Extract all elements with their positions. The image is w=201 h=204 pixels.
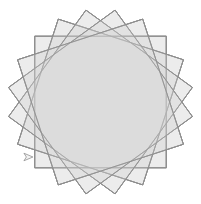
- turtle-graphics-canvas: [0, 0, 201, 204]
- rosette-drawing: [0, 0, 201, 204]
- rotated-squares-group: [9, 10, 193, 194]
